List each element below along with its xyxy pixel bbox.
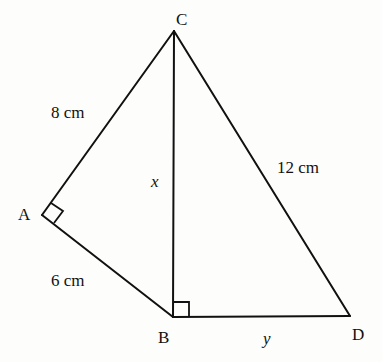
side-label-ab: 6 cm: [51, 272, 85, 289]
segment-cb: [173, 31, 174, 317]
diagram-lines: [0, 0, 382, 362]
side-label-cd: 12 cm: [277, 159, 319, 176]
vertex-label-c: C: [176, 11, 187, 28]
segment-bd: [173, 316, 350, 317]
right-angle-marker-b: [173, 302, 189, 317]
vertex-label-b: B: [158, 329, 169, 346]
vertex-label-a: A: [18, 206, 30, 223]
triangle-diagram: C A B D 8 cm 12 cm 6 cm x y: [0, 0, 382, 362]
segment-cd: [174, 31, 350, 316]
side-label-bd: y: [263, 330, 271, 347]
vertex-label-d: D: [352, 326, 364, 343]
segment-ab: [42, 215, 173, 317]
side-label-ac: 8 cm: [51, 104, 85, 121]
side-label-cb: x: [151, 173, 159, 190]
right-angle-marker-a: [51, 203, 63, 223]
